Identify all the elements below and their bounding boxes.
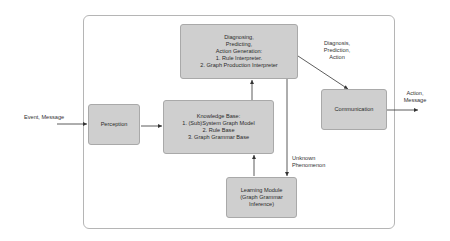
- diagnosing-node: Diagnosing, Predicting, Action Generatio…: [180, 24, 298, 79]
- edge-label-input: Event, Message: [24, 114, 84, 121]
- node-line: 1. (Sub)System Graph Model: [182, 120, 254, 127]
- label-line: Event, Message: [24, 114, 64, 120]
- label-line: Message: [398, 97, 432, 104]
- perception-node: Perception: [88, 104, 140, 145]
- label-line: Phenomenon: [292, 162, 340, 169]
- edge-label-diagnosis: Diagnosis, Prediction, Action: [315, 40, 359, 61]
- edge-label-output: Action, Message: [398, 90, 432, 104]
- node-line: 3. Graph Grammar Base: [188, 134, 249, 141]
- learning-module-node: Learning Module (Graph Grammar Inference…: [226, 177, 297, 218]
- node-line: 2. Graph Production Interpreter: [200, 62, 277, 69]
- label-line: Action: [315, 54, 359, 61]
- node-line: Action Generation:: [216, 48, 262, 55]
- label-line: Action,: [398, 90, 432, 97]
- edge-label-unknown: Unknown Phenomenon: [292, 155, 340, 169]
- label-line: Diagnosis,: [315, 40, 359, 47]
- node-line: Inference): [249, 201, 274, 208]
- node-line: Predicting,: [226, 41, 252, 48]
- label-line: Unknown: [292, 155, 340, 162]
- node-line: Learning Module: [241, 187, 283, 194]
- communication-node: Communication: [321, 89, 387, 130]
- node-line: Diagnosing,: [224, 34, 254, 41]
- node-line: Communication: [335, 106, 374, 113]
- knowledge-base-node: Knowledge Base: 1. (Sub)System Graph Mod…: [163, 100, 274, 154]
- node-line: Knowledge Base:: [197, 113, 241, 120]
- node-line: Perception: [101, 121, 128, 128]
- label-line: Prediction,: [315, 47, 359, 54]
- node-line: 1. Rule Interpreter.: [216, 55, 262, 62]
- node-line: (Graph Grammar: [240, 194, 283, 201]
- node-line: 2. Rule Base: [202, 127, 234, 134]
